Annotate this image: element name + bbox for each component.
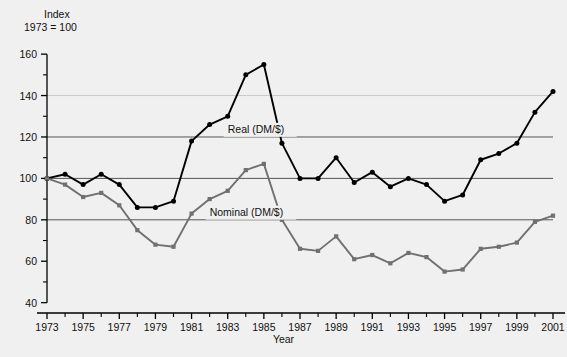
data-point bbox=[63, 172, 68, 177]
y-tick-label-40: 40 bbox=[25, 297, 37, 309]
data-point bbox=[171, 245, 175, 249]
data-point bbox=[81, 182, 86, 187]
chart-container: Index 1973 = 100 40608010012014016019731… bbox=[0, 0, 567, 357]
data-point bbox=[226, 189, 230, 193]
x-tick-label-1995: 1995 bbox=[433, 321, 457, 333]
data-point bbox=[298, 176, 303, 181]
data-point bbox=[514, 141, 519, 146]
series-label-real: Real (DM/$) bbox=[228, 123, 285, 135]
data-point bbox=[279, 141, 284, 146]
data-point bbox=[334, 155, 339, 160]
data-point bbox=[533, 220, 537, 224]
data-point bbox=[496, 151, 501, 156]
data-point bbox=[262, 162, 266, 166]
data-point bbox=[352, 180, 357, 185]
y-tick-label-60: 60 bbox=[25, 255, 37, 267]
x-tick-label-1987: 1987 bbox=[288, 321, 312, 333]
data-point bbox=[424, 255, 428, 259]
x-tick-label-2001: 2001 bbox=[541, 321, 565, 333]
y-axis-unit-line-2: 1973 = 100 bbox=[24, 21, 77, 34]
data-point bbox=[207, 122, 212, 127]
data-point bbox=[316, 176, 321, 181]
data-point bbox=[117, 203, 121, 207]
data-point bbox=[189, 139, 194, 144]
data-point bbox=[244, 168, 248, 172]
data-point bbox=[442, 199, 447, 204]
y-tick-label-120: 120 bbox=[19, 131, 37, 143]
y-tick-label-160: 160 bbox=[19, 48, 37, 60]
x-tick-label-1983: 1983 bbox=[216, 321, 240, 333]
data-point bbox=[442, 269, 446, 273]
data-point bbox=[63, 183, 67, 187]
x-tick-label-1981: 1981 bbox=[180, 321, 204, 333]
data-point bbox=[298, 247, 302, 251]
data-point bbox=[225, 114, 230, 119]
data-point bbox=[171, 199, 176, 204]
data-point bbox=[99, 172, 104, 177]
x-tick-label-1993: 1993 bbox=[397, 321, 421, 333]
series-label-nominal: Nominal (DM/$) bbox=[210, 206, 284, 218]
data-point bbox=[479, 247, 483, 251]
y-tick-label-100: 100 bbox=[19, 172, 37, 184]
data-point bbox=[45, 176, 49, 180]
line-chart-plot: 4060801001201401601973197519771979198119… bbox=[0, 0, 567, 357]
data-point bbox=[135, 205, 140, 210]
data-point bbox=[388, 261, 392, 265]
data-point bbox=[424, 182, 429, 187]
data-point bbox=[81, 195, 85, 199]
data-point bbox=[334, 234, 338, 238]
y-tick-label-80: 80 bbox=[25, 214, 37, 226]
data-point bbox=[551, 89, 556, 94]
data-point bbox=[261, 62, 266, 67]
data-point bbox=[370, 253, 374, 257]
data-point bbox=[189, 211, 193, 215]
x-tick-label-1999: 1999 bbox=[505, 321, 529, 333]
x-axis-title: Year bbox=[0, 333, 567, 345]
data-point bbox=[352, 257, 356, 261]
x-tick-label-1973: 1973 bbox=[35, 321, 59, 333]
x-tick-label-1991: 1991 bbox=[361, 321, 385, 333]
data-point bbox=[532, 110, 537, 115]
data-point bbox=[460, 192, 465, 197]
data-point bbox=[461, 267, 465, 271]
data-point bbox=[243, 72, 248, 77]
data-point bbox=[478, 157, 483, 162]
data-point bbox=[153, 205, 158, 210]
data-point bbox=[406, 251, 410, 255]
data-point bbox=[388, 184, 393, 189]
x-tick-label-1997: 1997 bbox=[469, 321, 493, 333]
x-tick-label-1985: 1985 bbox=[252, 321, 276, 333]
x-tick-label-1975: 1975 bbox=[71, 321, 95, 333]
data-point bbox=[497, 245, 501, 249]
data-point bbox=[515, 240, 519, 244]
data-point bbox=[135, 228, 139, 232]
data-point bbox=[370, 170, 375, 175]
data-point bbox=[153, 243, 157, 247]
x-tick-label-1979: 1979 bbox=[144, 321, 168, 333]
data-point bbox=[208, 197, 212, 201]
data-point bbox=[406, 176, 411, 181]
data-point bbox=[551, 214, 555, 218]
x-tick-label-1977: 1977 bbox=[108, 321, 132, 333]
data-point bbox=[99, 191, 103, 195]
x-tick-label-1989: 1989 bbox=[324, 321, 348, 333]
y-axis-unit-line-1: Index bbox=[44, 8, 70, 21]
y-tick-label-140: 140 bbox=[19, 90, 37, 102]
data-point bbox=[117, 182, 122, 187]
series-line-real bbox=[47, 65, 553, 208]
data-point bbox=[316, 249, 320, 253]
